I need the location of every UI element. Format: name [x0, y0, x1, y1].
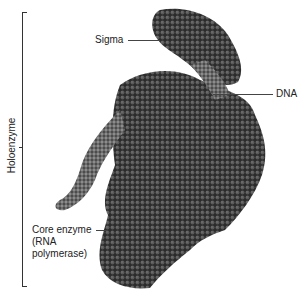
holoenzyme-label: Holoenzyme: [6, 118, 17, 174]
sigma-leader-line: [128, 40, 160, 41]
core-enzyme-label: Core enzyme: [32, 224, 91, 236]
bracket-tick: [19, 147, 23, 148]
core-enzyme-body: [100, 71, 266, 288]
core-enzyme-label-line3: polymerase): [32, 248, 87, 260]
core-enzyme-label-line2: (RNA: [32, 236, 56, 248]
core-leader-line: [96, 230, 108, 231]
dna-label: DNA: [276, 88, 297, 100]
holoenzyme-bracket: [22, 12, 27, 287]
dna-leader-line: [213, 94, 273, 95]
sigma-label: Sigma: [95, 34, 123, 46]
holoenzyme-figure: Holoenzyme Sigma DNA Core enzyme (RNA po…: [0, 0, 308, 299]
